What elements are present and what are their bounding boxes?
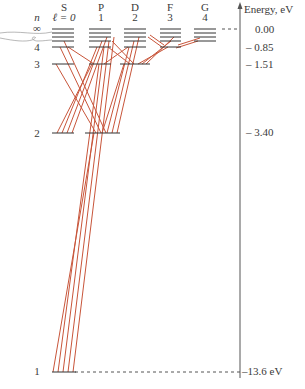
axis-title: Energy, eV [244, 4, 293, 15]
column-d [120, 29, 150, 64]
energy-axis [75, 2, 243, 378]
n-label-infinity: ∞ [33, 23, 41, 34]
tick-label-1: – 0.85 [246, 42, 274, 53]
n-label-4: 4 [34, 42, 40, 53]
column-p [85, 29, 120, 133]
energy-levels [52, 29, 216, 372]
column-s [52, 29, 76, 372]
column-header-s-l: ℓ = 0 [52, 12, 75, 23]
column-header-p-l: 1 [98, 12, 104, 23]
column-header-d-l: 2 [132, 12, 138, 23]
transitions [53, 35, 200, 372]
n-label-3: 3 [34, 59, 40, 70]
tick-label-0: 0.00 [255, 24, 274, 35]
n-label-1: 1 [34, 366, 40, 377]
tick-label-2: – 1.51 [246, 59, 274, 70]
axis-arrow-icon [238, 2, 243, 9]
tick-label-3: – 3.40 [246, 127, 274, 138]
tick-label-4: –13.6 eV [242, 366, 282, 377]
n-label-2: 2 [34, 128, 40, 139]
column-header-f-l: 3 [167, 12, 173, 23]
column-header-g-l: 4 [202, 12, 208, 23]
limit-curves [0, 32, 52, 41]
